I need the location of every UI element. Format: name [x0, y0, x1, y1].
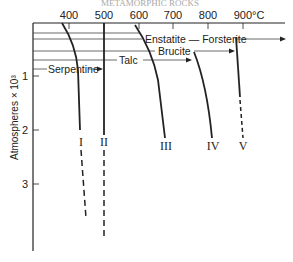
page-title: METAMORPHIC ROCKS — [101, 0, 199, 8]
x-tick-700: 700 — [164, 9, 182, 21]
curve-label-III: III — [160, 139, 172, 153]
curve-V-dashed — [240, 100, 243, 138]
curve-label-I: I — [79, 135, 83, 149]
x-tick-900: 900°C — [234, 9, 265, 21]
x-ticks — [69, 23, 243, 29]
y-axis-title: Atmospheres × 10³ — [9, 75, 20, 160]
phase-diagram: METAMORPHIC ROCKS 400 500 600 700 800 90… — [0, 0, 293, 262]
curve-label-IV: IV — [207, 139, 220, 153]
x-tick-400: 400 — [60, 9, 78, 21]
y-tick-1: 1 — [22, 70, 28, 82]
label-enstatite-forsterite: Enstatite — Forsterite — [145, 33, 247, 45]
arrow-head-icon — [186, 58, 192, 63]
label-talc: Talc — [119, 54, 138, 66]
label-brucite: Brucite — [158, 45, 191, 57]
y-ticks — [33, 76, 39, 184]
curve-IV-solid — [194, 52, 212, 138]
arrow-head-icon — [229, 49, 235, 54]
x-tick-800: 800 — [199, 9, 217, 21]
y-tick-2: 2 — [22, 124, 28, 136]
arrow-head-icon — [280, 37, 286, 42]
curve-label-II: II — [100, 135, 108, 149]
curve-V-solid — [236, 37, 240, 97]
x-tick-600: 600 — [130, 9, 148, 21]
x-tick-500: 500 — [95, 9, 113, 21]
arrow-head-icon — [97, 67, 103, 72]
curve-I-dashed — [81, 150, 86, 218]
curve-label-V: V — [239, 139, 248, 153]
y-tick-3: 3 — [22, 178, 28, 190]
